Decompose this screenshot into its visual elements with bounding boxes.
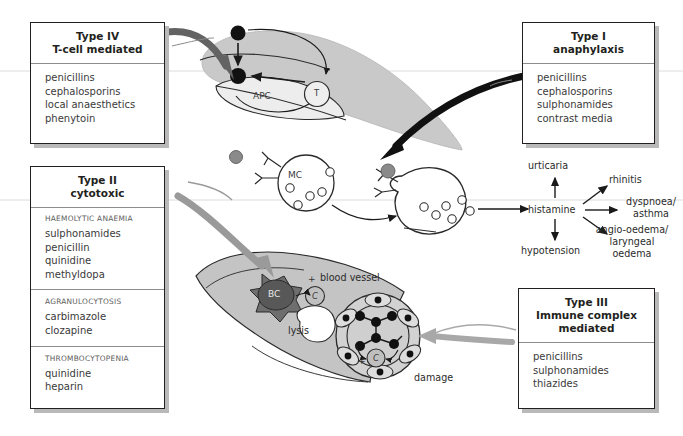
drug-item: sulphonamides <box>45 227 160 241</box>
drug-item: quinidine <box>45 254 160 268</box>
label-dyspnoea-asthma-line2: asthma <box>621 208 681 220</box>
label-dyspnoea-asthma-line1: dyspnoea/ <box>621 196 681 208</box>
label-blood-cell: BC <box>268 289 280 299</box>
box-type-iii-title: Type III Immune complex mediated <box>519 289 654 343</box>
label-t-cell: T <box>314 88 319 98</box>
label-angio-oedema-line3: oedema <box>589 248 675 260</box>
box-type-i-title-line2: anaphylaxis <box>527 43 650 56</box>
diagram-canvas: Type IV T-cell mediated penicillins ceph… <box>0 0 683 436</box>
box-type-iii-drugs: penicillins sulphonamides thiazides <box>519 343 654 399</box>
label-angio-oedema: angio-oedema/ laryngeal oedema <box>589 224 675 260</box>
label-urticaria: urticaria <box>528 160 568 171</box>
drug-item: contrast media <box>537 112 650 126</box>
drug-item: quinidine <box>45 367 160 381</box>
box-type-iv-title-line2: T-cell mediated <box>35 43 160 56</box>
box-type-iv-title: Type IV T-cell mediated <box>31 23 164 64</box>
label-complement-2: C <box>373 353 379 363</box>
label-hypotension: hypotension <box>521 245 580 256</box>
box-type-i-drugs: penicillins cephalosporins sulphonamides… <box>523 64 654 133</box>
box-type-iii-title-line1: Type III <box>523 296 650 309</box>
section-heading: AGRANULOCYTOSIS <box>45 297 160 306</box>
box-type-ii-title-line1: Type II <box>35 174 160 187</box>
box-type-ii-title-line2: cytotoxic <box>35 187 160 200</box>
drug-item: carbimazole <box>45 310 160 324</box>
label-blood-vessel: blood vessel <box>320 272 380 283</box>
label-damage: damage <box>414 372 453 383</box>
label-dyspnoea-asthma: dyspnoea/ asthma <box>621 196 681 220</box>
label-plus-2: + <box>358 356 366 366</box>
label-complement-1: C <box>312 291 318 301</box>
label-histamine: histamine <box>528 204 575 215</box>
box-type-i-title: Type I anaphylaxis <box>523 23 654 64</box>
drug-item: penicillins <box>537 71 650 85</box>
box-type-ii-section-haemolytic: HAEMOLYTIC ANAEMIA sulphonamides penicil… <box>31 208 164 290</box>
box-type-iii-title-line2: Immune complex <box>523 309 650 322</box>
label-rhinitis: rhinitis <box>609 174 642 185</box>
box-type-iii[interactable]: Type III Immune complex mediated penicil… <box>518 288 655 409</box>
drug-item: clozapine <box>45 324 160 338</box>
section-heading: HAEMOLYTIC ANAEMIA <box>45 214 160 223</box>
drug-item: cephalosporins <box>537 85 650 99</box>
label-plus-1: + <box>308 274 316 284</box>
box-type-ii-section-thrombocytopenia: THROMBOCYTOPENIA quinidine heparin <box>31 347 164 402</box>
drug-item: penicillin <box>45 241 160 255</box>
box-type-ii[interactable]: Type II cytotoxic HAEMOLYTIC ANAEMIA sul… <box>30 166 165 409</box>
box-type-iii-title-line3: mediated <box>523 322 650 335</box>
label-angio-oedema-line2: laryngeal <box>589 236 675 248</box>
box-type-iv-title-line1: Type IV <box>35 30 160 43</box>
drug-item: cephalosporins <box>45 85 160 99</box>
label-lysis: lysis <box>288 325 309 336</box>
drug-item: penicillins <box>533 350 650 364</box>
box-type-ii-section-agranulocytosis: AGRANULOCYTOSIS carbimazole clozapine <box>31 290 164 346</box>
box-type-iv[interactable]: Type IV T-cell mediated penicillins ceph… <box>30 22 165 144</box>
drug-item: heparin <box>45 380 160 394</box>
label-apc: APC <box>253 91 271 101</box>
drug-item: sulphonamides <box>533 364 650 378</box>
drug-item: thiazides <box>533 377 650 391</box>
drug-item: phenytoin <box>45 112 160 126</box>
label-angio-oedema-line1: angio-oedema/ <box>589 224 675 236</box>
box-type-i-title-line1: Type I <box>527 30 650 43</box>
box-type-ii-title: Type II cytotoxic <box>31 167 164 208</box>
drug-item: penicillins <box>45 71 160 85</box>
drug-item: sulphonamides <box>537 98 650 112</box>
drug-item: methyldopa <box>45 268 160 282</box>
drug-item: local anaesthetics <box>45 98 160 112</box>
box-type-iv-drugs: penicillins cephalosporins local anaesth… <box>31 64 164 133</box>
box-type-i[interactable]: Type I anaphylaxis penicillins cephalosp… <box>522 22 655 144</box>
section-heading: THROMBOCYTOPENIA <box>45 354 160 363</box>
label-mast-cell: MC <box>288 170 302 180</box>
